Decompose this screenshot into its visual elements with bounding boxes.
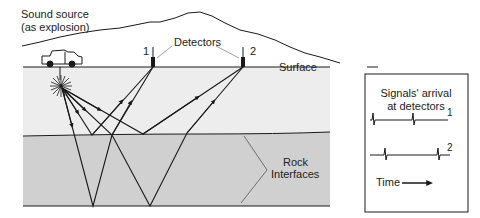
seismic-reflection-diagram: Sound source (as explosion) Detectors 1 … xyxy=(0,0,480,218)
signal-trace-2-label: 2 xyxy=(447,142,453,153)
detectors-leader-1 xyxy=(157,46,172,58)
signal-box-title-line2: at detectors xyxy=(387,100,445,112)
signal-arrival-box: Signals' arrival at detectors 1 2 Time xyxy=(365,74,468,212)
surface-label: Surface xyxy=(279,61,317,73)
truck-icon xyxy=(42,50,82,67)
detector-1-label: 1 xyxy=(143,45,149,57)
time-label: Time xyxy=(376,176,400,188)
detectors-label: Detectors xyxy=(174,36,222,48)
source-label-line2: (as explosion) xyxy=(21,21,89,33)
source-label-line1: Sound source xyxy=(21,8,89,20)
rock-label-line2: Interfaces xyxy=(271,168,320,180)
rock-label-line1: Rock xyxy=(283,156,309,168)
detector-1-icon xyxy=(151,47,155,67)
detector-2-label: 2 xyxy=(250,45,256,57)
upper-layer xyxy=(23,67,330,135)
signal-box-title-line1: Signals' arrival xyxy=(380,87,451,99)
signal-trace-1-label: 1 xyxy=(447,107,453,118)
detector-2-icon xyxy=(241,47,245,67)
